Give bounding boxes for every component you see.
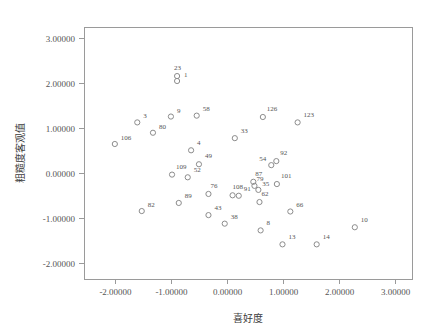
point-label: 126: [267, 105, 278, 113]
point-label: 80: [159, 123, 167, 131]
data-point: 109: [169, 163, 187, 178]
point-label: 33: [241, 127, 249, 135]
data-point: 123: [295, 111, 315, 125]
data-point: 92: [274, 149, 288, 164]
data-point: 13: [280, 233, 296, 247]
data-point: 10: [352, 216, 368, 230]
point-label: 23: [174, 64, 182, 72]
data-point: 4: [188, 139, 201, 153]
point-label: 89: [185, 192, 193, 200]
x-tick-label: -1.00000: [155, 287, 188, 297]
x-tick-label: 1.00000: [269, 287, 299, 297]
point-label: 109: [176, 163, 187, 171]
point-marker: [269, 163, 274, 168]
x-axis-title: 喜好度: [233, 312, 263, 324]
y-tick-label: 1.00000: [46, 124, 76, 134]
y-tick-label: -1.00000: [43, 214, 76, 224]
point-label: 108: [233, 183, 244, 191]
point-label: 38: [231, 213, 239, 221]
data-point: 33: [232, 127, 248, 141]
point-marker: [274, 159, 279, 164]
point-label: 106: [121, 134, 132, 142]
point-label: 123: [304, 111, 315, 119]
point-label: 9: [177, 107, 181, 115]
data-point: 14: [314, 233, 330, 247]
data-point: 82: [139, 201, 155, 214]
data-point: 3: [135, 112, 148, 125]
x-tick-label: -2.00000: [99, 287, 132, 297]
point-marker: [222, 221, 227, 226]
point-label: 92: [280, 149, 288, 157]
point-label: 14: [323, 233, 331, 241]
point-marker: [257, 199, 262, 204]
point-label: 49: [205, 152, 213, 160]
data-point: 49: [196, 152, 212, 167]
point-marker: [176, 200, 181, 205]
point-label: 4: [197, 139, 201, 147]
point-label: 54: [259, 155, 267, 163]
point-marker: [280, 242, 285, 247]
point-marker: [112, 141, 117, 146]
data-point: 43: [206, 204, 222, 218]
point-label: 91: [244, 185, 252, 193]
point-marker: [206, 213, 211, 218]
point-label: 3: [143, 112, 147, 120]
point-marker: [185, 175, 190, 180]
point-label: 35: [262, 180, 270, 188]
y-tick-label: 2.00000: [46, 79, 76, 89]
y-tick-label: -2.00000: [43, 259, 76, 269]
point-label: 13: [288, 233, 296, 241]
x-tick-label: 0.00000: [213, 287, 243, 297]
x-tick-label: 2.00000: [325, 287, 355, 297]
point-label: 76: [210, 182, 218, 190]
point-marker: [274, 181, 279, 186]
scatter-plot-figure: -2.00000-1.000000.000001.000002.000003.0…: [0, 0, 421, 331]
point-marker: [232, 136, 237, 141]
point-marker: [352, 225, 357, 230]
point-marker: [139, 208, 144, 213]
point-marker: [150, 130, 155, 135]
data-point: 23: [174, 64, 182, 79]
point-label: 8: [267, 219, 271, 227]
point-label: 10: [361, 216, 369, 224]
plot-frame: [85, 28, 413, 280]
point-marker: [188, 148, 193, 153]
point-marker: [194, 113, 199, 118]
data-point: 38: [222, 213, 238, 227]
data-point: 52: [185, 166, 201, 180]
point-label: 101: [281, 172, 292, 180]
point-marker: [174, 78, 179, 83]
data-point: 106: [112, 134, 132, 147]
point-label: 58: [203, 105, 211, 113]
data-point: 8: [258, 219, 271, 233]
data-point: 76: [206, 182, 218, 197]
y-tick-label: 3.00000: [46, 34, 76, 44]
point-marker: [174, 73, 179, 78]
point-marker: [314, 242, 319, 247]
y-tick-label: 0.00000: [46, 169, 76, 179]
point-marker: [258, 228, 263, 233]
point-marker: [236, 193, 241, 198]
data-point: 89: [176, 192, 192, 206]
point-marker: [135, 120, 140, 125]
data-point: 80: [150, 123, 166, 136]
y-axis-title: 粗糙度客观值: [14, 123, 26, 183]
point-label: 82: [148, 201, 156, 209]
point-marker: [168, 114, 173, 119]
point-label: 62: [261, 190, 269, 198]
point-marker: [206, 191, 211, 196]
point-label: 43: [214, 204, 222, 212]
data-point: 126: [260, 105, 278, 120]
point-label: 1: [184, 71, 188, 79]
data-point: 58: [194, 105, 210, 119]
point-marker: [260, 114, 265, 119]
data-point: 54: [259, 155, 274, 168]
data-point: 1: [174, 71, 188, 84]
point-label: 66: [296, 201, 304, 209]
plot-canvas: -2.00000-1.000000.000001.000002.000003.0…: [0, 0, 421, 331]
point-label: 52: [194, 166, 202, 174]
data-point: 66: [288, 201, 304, 215]
data-point: 101: [274, 172, 292, 187]
data-point: 9: [168, 107, 181, 120]
x-tick-label: 3.00000: [381, 287, 411, 297]
